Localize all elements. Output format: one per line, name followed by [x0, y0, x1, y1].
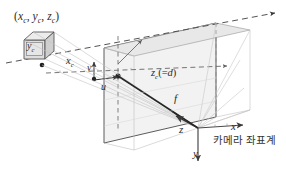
label-focal-length: f [174, 93, 177, 104]
label-image-u: u [101, 82, 106, 92]
label-point-3d: (xc, yc, zc) [14, 11, 59, 25]
camera-projection-diagram: (xc, yc, zc) yc xc v u zc(=d) f x y z 카메… [0, 0, 286, 171]
label-camera-frame-caption: 카메라 좌표계 [213, 135, 276, 146]
label-image-v: v [87, 63, 91, 73]
label-cube-face: yc [27, 41, 34, 54]
label-axis-xc: xc [66, 56, 74, 69]
label-camera-y: y [193, 148, 198, 159]
label-camera-z: z [179, 124, 183, 135]
label-depth-zc: zc(=d) [151, 68, 176, 81]
label-camera-x: x [231, 121, 236, 132]
